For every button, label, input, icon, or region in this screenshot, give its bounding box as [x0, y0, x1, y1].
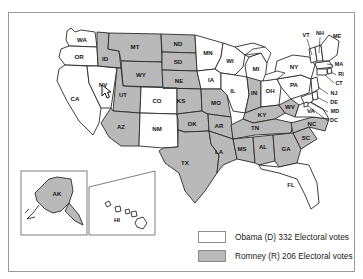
clipped-top-text-strip — [0, 0, 363, 11]
inset-label-HI: HI — [114, 216, 120, 223]
label-CT: CT — [335, 80, 343, 86]
leader-CT — [325, 75, 334, 83]
legend-row-obama: Obama (D) 332 Electoral votes — [198, 227, 356, 246]
state-RI[interactable] — [327, 68, 332, 74]
label-LA: LA — [215, 148, 224, 155]
label-CO: CO — [152, 97, 161, 104]
label-FL: FL — [287, 181, 295, 188]
label-IN: IN — [251, 89, 257, 96]
label-AZ: AZ — [117, 123, 125, 130]
label-IA: IA — [208, 76, 215, 83]
label-MS: MS — [237, 145, 246, 152]
label-WV: WV — [285, 103, 296, 110]
label-SD: SD — [174, 58, 183, 65]
state-CT[interactable] — [317, 69, 327, 75]
label-ND: ND — [174, 40, 183, 47]
label-MA: MA — [335, 61, 343, 67]
label-TX: TX — [181, 159, 190, 166]
label-NM: NM — [152, 125, 161, 132]
label-NH: NH — [316, 30, 324, 36]
label-IL: IL — [230, 87, 236, 94]
label-WY: WY — [136, 71, 146, 78]
legend-swatch-romney — [198, 250, 226, 262]
label-CA: CA — [71, 95, 80, 102]
label-MO: MO — [211, 99, 221, 106]
label-NC: NC — [308, 120, 317, 127]
legend-label-obama: Obama (D) 332 Electoral votes — [235, 232, 349, 242]
legend-row-romney: Romney (R) 206 Electoral votes — [198, 246, 356, 265]
leader-NJ — [318, 87, 328, 94]
label-KS: KS — [177, 97, 185, 104]
label-NY: NY — [290, 63, 298, 70]
state-NJ[interactable] — [311, 77, 319, 93]
figure-frame: WA OR CA NV ID MT WY UT AZ CO NM ND SD N… — [8, 12, 355, 272]
map-legend: Obama (D) 332 Electoral votes Romney (R)… — [198, 227, 356, 265]
state-AL[interactable] — [253, 135, 275, 165]
label-DC: DC — [330, 117, 338, 123]
label-DE: DE — [330, 99, 338, 105]
label-MN: MN — [203, 49, 212, 56]
label-MT: MT — [131, 43, 140, 50]
label-PA: PA — [290, 81, 299, 88]
label-MI: MI — [253, 65, 260, 72]
label-NV: NV — [99, 81, 108, 88]
inset-label-AK: AK — [53, 190, 62, 197]
label-UT: UT — [119, 91, 127, 98]
label-OK: OK — [187, 120, 197, 127]
label-AR: AR — [215, 122, 224, 129]
label-GA: GA — [281, 145, 291, 152]
label-WI: WI — [226, 57, 234, 64]
label-KY: KY — [258, 111, 266, 118]
legend-swatch-obama — [198, 231, 226, 243]
label-SC: SC — [302, 134, 311, 141]
label-MD: MD — [331, 108, 339, 114]
label-OR: OR — [74, 53, 84, 60]
label-ME: ME — [333, 33, 341, 39]
label-TN: TN — [251, 124, 259, 131]
label-OH: OH — [265, 87, 274, 94]
leader-DE — [317, 97, 328, 103]
label-NE: NE — [175, 77, 183, 84]
legend-label-romney: Romney (R) 206 Electoral votes — [235, 251, 353, 261]
label-VT: VT — [303, 32, 311, 38]
label-NJ: NJ — [331, 90, 338, 96]
label-RI: RI — [338, 71, 344, 77]
label-ID: ID — [102, 55, 109, 62]
label-AL: AL — [259, 143, 267, 150]
label-WA: WA — [77, 36, 87, 43]
